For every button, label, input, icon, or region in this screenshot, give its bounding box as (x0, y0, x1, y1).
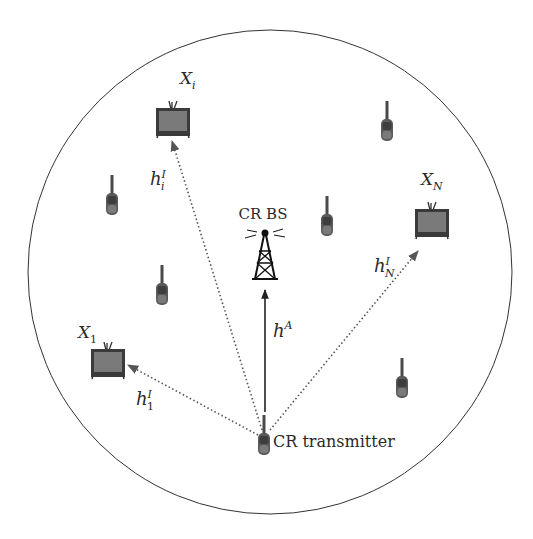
transmitter-label: CR transmitter (273, 432, 395, 451)
link-h-i-I (172, 141, 262, 430)
walkie-talkie-icon (106, 175, 118, 215)
walkie-talkie-icon (156, 265, 168, 305)
network-diagram: CR BS Xi XN X1 CR transmitter hIi hIN hI… (0, 0, 533, 539)
tv-icon (91, 342, 125, 379)
tv-icon (415, 202, 449, 239)
channel-label-hNI: hIN (374, 255, 395, 280)
receiver-label-xn: XN (419, 169, 443, 193)
receiver-label-xi: Xi (178, 68, 196, 92)
tv-icon (156, 101, 190, 138)
base-station-label: CR BS (239, 205, 288, 223)
channel-label-hiI: hIi (150, 168, 167, 193)
channel-label-h1I: hI1 (136, 388, 154, 413)
link-h-N-I (270, 251, 418, 430)
cell-tower-icon (245, 229, 285, 279)
walkie-talkie-icon (321, 196, 333, 236)
channel-label-hA: hA (273, 319, 293, 341)
receiver-label-x1: X1 (76, 322, 97, 346)
walkie-talkie-icon (396, 358, 408, 398)
walkie-talkie-icon (381, 101, 393, 141)
